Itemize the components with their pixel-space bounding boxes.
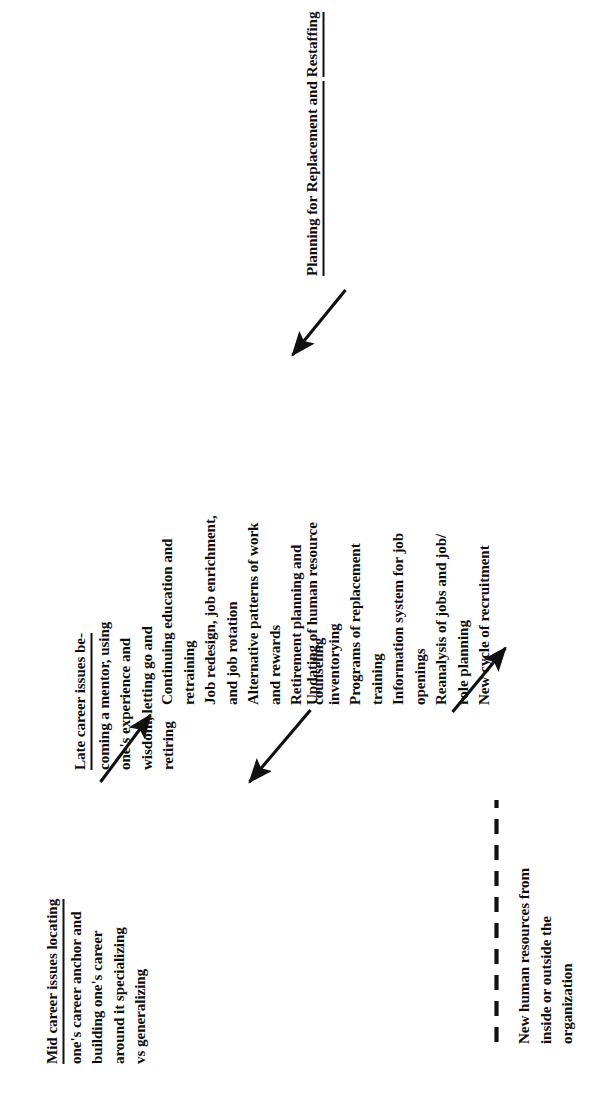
list-item: and job rotation (220, 515, 242, 705)
list-item: retraining (177, 515, 199, 705)
new-human-resources-line-2: inside or outside the (534, 868, 556, 1044)
mid-career-line-5: vs generalizing (128, 899, 150, 1064)
list-item: and rewards (263, 515, 285, 705)
late-career-line-3: one's experience and (113, 622, 135, 770)
block-new-human-resources: New human resources from inside or outsi… (512, 868, 577, 1044)
late-career-line-1: Late career issues be- (68, 633, 92, 770)
list-item: Programs of replacement (343, 522, 365, 705)
new-human-resources-line-3: organization (555, 868, 577, 1044)
block-mid-career: Mid career issues locating one's career … (40, 899, 150, 1064)
block-planning-replacement: Planning for Replacement and Restaffing (300, 12, 324, 276)
late-career-line-4: wisdom, letting go and (135, 622, 157, 770)
mid-career-line-4: around it specializing (107, 899, 129, 1064)
new-human-resources-line-1: New human resources from (512, 868, 534, 1044)
list-item: Alternative patterns of work (241, 515, 263, 705)
list-replacement-staffing-activities: Updating of human resource inventorying … (300, 522, 494, 705)
list-item: Updating of human resource (300, 522, 322, 705)
connector-activities-to-late-career (249, 710, 310, 782)
rotated-content: Mid career issues locating one's career … (0, 0, 599, 1100)
list-item: New cycle of recruitment (472, 522, 494, 705)
mid-career-line-2: one's career anchor and (64, 899, 86, 1064)
late-career-line-2: coming a mentor, using (92, 622, 114, 770)
list-item: openings (408, 522, 430, 705)
mid-career-line-1: Mid career issues locating (40, 899, 64, 1064)
list-item: Job redesign, job enrichment, (198, 515, 220, 705)
planning-replacement-line-2: Restaffing (300, 12, 324, 78)
planning-replacement-line-1: Planning for Replacement and (300, 81, 324, 276)
list-item: inventorying (322, 522, 344, 705)
list-item: Continuing education and (155, 515, 177, 705)
list-item: training (365, 522, 387, 705)
diagram-canvas: Mid career issues locating one's career … (0, 0, 599, 1100)
connector-planning-to-staffing-activities (292, 290, 345, 355)
mid-career-line-3: building one's career (85, 899, 107, 1064)
list-item: Reanalysis of jobs and job/ (429, 522, 451, 705)
list-item: Information system for job (386, 522, 408, 705)
list-item: role planning (451, 522, 473, 705)
